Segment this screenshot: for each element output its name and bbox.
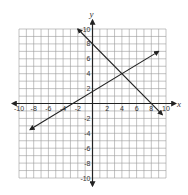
y-tick-label: 2 <box>87 85 91 92</box>
line-increasing <box>30 51 159 129</box>
x-tick-label: -8 <box>31 105 37 112</box>
x-tick-label: 2 <box>105 105 109 112</box>
y-tick-label: -10 <box>80 175 90 182</box>
x-axis-label: x <box>176 99 181 109</box>
y-axis-label: y <box>89 9 94 19</box>
x-tick-label: -2 <box>75 105 81 112</box>
y-tick-label: -4 <box>84 130 90 137</box>
coordinate-plane: xy-10-8-6-4-2246810108642-2-4-6-8-10 <box>0 0 188 195</box>
y-tick-label: 10 <box>83 26 91 33</box>
y-tick-label: 6 <box>87 55 91 62</box>
y-tick-label: -6 <box>84 145 90 152</box>
y-tick-label: -2 <box>84 115 90 122</box>
x-tick-label: 4 <box>120 105 124 112</box>
x-tick-label: 10 <box>162 105 170 112</box>
x-tick-label: -10 <box>14 105 24 112</box>
x-tick-label: -6 <box>45 105 51 112</box>
y-tick-label: 4 <box>87 70 91 77</box>
x-tick-label: 6 <box>135 105 139 112</box>
graph-canvas: xy-10-8-6-4-2246810108642-2-4-6-8-10 <box>0 0 188 195</box>
y-tick-label: -8 <box>84 160 90 167</box>
